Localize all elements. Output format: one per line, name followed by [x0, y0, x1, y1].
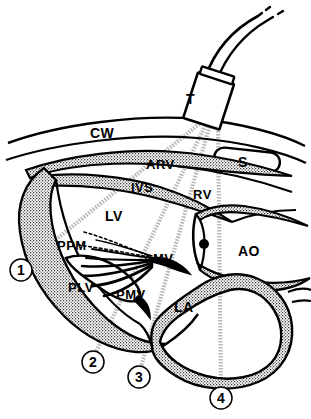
label-ivs: IVS — [131, 181, 153, 194]
figure-canvas: 1 2 3 4 T CW ARV IVS RV LV S AO PPM AMV … — [0, 0, 311, 419]
label-amv: AMV — [143, 252, 173, 265]
aortic-valve-hinge — [193, 214, 198, 264]
label-cw: CW — [90, 126, 114, 140]
label-plv: PLV — [68, 281, 94, 294]
label-la: LA — [174, 300, 194, 314]
label-pmv: PMV — [116, 288, 146, 301]
label-lv: LV — [105, 209, 123, 223]
label-arv: ARV — [146, 158, 175, 171]
pulmonary-vein — [288, 289, 311, 302]
transducer-assembly — [183, 7, 283, 130]
aortic-valve-coaptation — [199, 239, 209, 249]
anatomical-drawing — [0, 0, 311, 419]
label-rv: RV — [193, 188, 212, 201]
label-s: S — [238, 155, 248, 169]
transducer-label: T — [186, 92, 195, 106]
chest-wall-outer-line — [8, 118, 305, 146]
label-ppm: PPM — [57, 239, 87, 252]
cable-dotted-end — [258, 7, 283, 20]
label-ao: AO — [238, 244, 260, 258]
